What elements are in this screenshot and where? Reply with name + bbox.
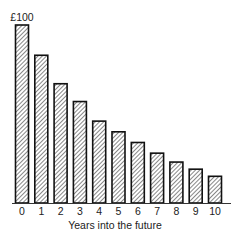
x-tick-labels: 012345678910 xyxy=(19,205,221,217)
bar-year-6 xyxy=(131,142,144,203)
bar-year-7 xyxy=(151,153,164,203)
x-tick-label: 5 xyxy=(116,205,122,217)
bar-year-3 xyxy=(73,102,86,203)
bar-year-2 xyxy=(54,84,67,203)
bar-year-5 xyxy=(112,132,125,203)
x-tick-label: 2 xyxy=(58,205,64,217)
x-tick-label: 4 xyxy=(96,205,102,217)
x-tick-label: 7 xyxy=(154,205,160,217)
bar-year-9 xyxy=(189,169,202,203)
x-tick-label: 1 xyxy=(38,205,44,217)
bar-year-4 xyxy=(93,121,106,203)
bar-chart: 012345678910 £100 Years into the future xyxy=(0,0,250,242)
x-tick-label: 0 xyxy=(19,205,25,217)
x-tick-label: 6 xyxy=(135,205,141,217)
x-tick-label: 9 xyxy=(193,205,199,217)
bars-group xyxy=(16,25,222,203)
x-axis-label: Years into the future xyxy=(68,219,162,231)
x-tick-label: 8 xyxy=(173,205,179,217)
bar-year-10 xyxy=(209,176,222,203)
bar-year-0 xyxy=(16,25,29,203)
bar-year-8 xyxy=(170,162,183,203)
top-value-annotation: £100 xyxy=(10,11,34,23)
x-tick-label: 10 xyxy=(209,205,221,217)
x-tick-label: 3 xyxy=(77,205,83,217)
bar-year-1 xyxy=(35,55,48,203)
